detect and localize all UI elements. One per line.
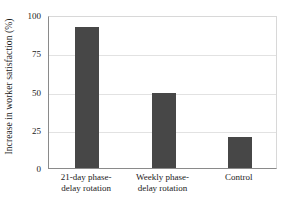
y-axis-tick-labels: 0255075100 <box>18 0 44 176</box>
bar-chart: Increase in worker satisfaction (%) 0255… <box>0 0 290 210</box>
bar <box>75 27 99 168</box>
y-axis-title-text: Increase in worker satisfaction (%) <box>3 18 14 154</box>
bar <box>152 93 176 168</box>
y-axis-tick-label: 100 <box>28 12 42 21</box>
x-axis-tick-labels: 21-day phase- delay rotationWeekly phase… <box>48 172 277 206</box>
x-axis-tick-label: Weekly phase- delay rotation <box>136 172 189 193</box>
y-axis-tick-label: 25 <box>32 126 41 135</box>
x-axis-tick-label: 21-day phase- delay rotation <box>61 172 112 193</box>
y-axis-tick-label: 0 <box>37 165 42 174</box>
x-axis-tick-label: Control <box>225 172 253 183</box>
y-axis-tick-label: 75 <box>32 50 41 59</box>
bar <box>228 137 252 168</box>
y-axis-title: Increase in worker satisfaction (%) <box>0 0 16 172</box>
y-axis-tick-label: 50 <box>32 88 41 97</box>
plot-area <box>48 16 277 169</box>
